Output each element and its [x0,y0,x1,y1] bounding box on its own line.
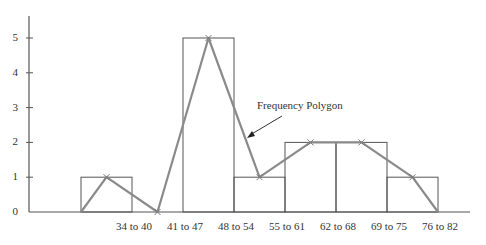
chart-canvas [0,0,486,245]
histogram-bar [234,177,285,212]
annotation-arrow-line [250,116,282,135]
histogram-bar [285,142,336,212]
histogram-bar [336,142,387,212]
x-tick-label: 48 to 54 [211,220,262,232]
y-tick-label: 0 [4,205,18,217]
x-tick-label: 76 to 82 [415,220,466,232]
y-tick-label: 5 [4,31,18,43]
histogram-chart: 012345 34 to 4041 to 4748 to 5455 to 616… [0,0,486,245]
x-tick-label: 55 to 61 [262,220,313,232]
frequency-polygon-annotation: Frequency Polygon [257,99,343,111]
y-tick-label: 4 [4,66,18,78]
x-tick-label: 34 to 40 [109,220,160,232]
x-tick-label: 62 to 68 [313,220,364,232]
histogram-bar [81,177,132,212]
histogram-bar [387,177,438,212]
annotation-arrowhead-icon [247,131,255,138]
frequency-polygon-line [81,38,438,212]
x-tick-label: 41 to 47 [160,220,211,232]
y-tick-label: 1 [4,170,18,182]
x-tick-label: 69 to 75 [364,220,415,232]
y-tick-label: 3 [4,101,18,113]
y-tick-label: 2 [4,135,18,147]
histogram-bar [183,38,234,212]
